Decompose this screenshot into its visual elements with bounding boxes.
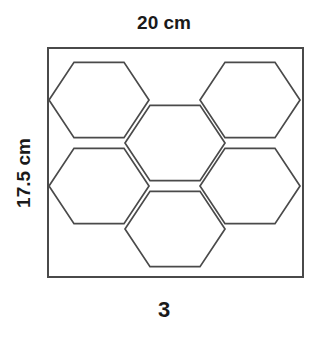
bounding-rectangle <box>48 48 303 277</box>
hexagon-bottom-center <box>125 191 225 266</box>
honeycomb-diagram <box>0 0 328 339</box>
hexagon-top-left <box>49 62 149 137</box>
hexagon-center-upper <box>125 105 225 180</box>
hexagon-middle-right <box>200 148 300 223</box>
hexagon-group <box>49 62 300 266</box>
hexagon-top-right <box>200 62 300 137</box>
hexagon-middle-left <box>49 148 149 223</box>
geometry-figure: 20 cm 17.5 cm 3 <box>0 0 328 339</box>
figure-number-label: 3 <box>0 297 328 323</box>
